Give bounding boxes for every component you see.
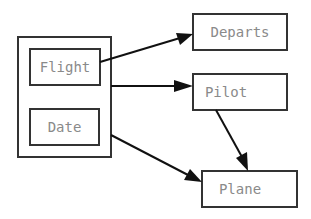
arrowhead-pilot [174,80,193,92]
arrowhead-departs [176,33,193,45]
node-date[interactable]: Date [30,109,99,145]
node-flight[interactable]: Flight [30,49,100,85]
node-date-label: Date [48,119,82,135]
edge-pilot-to-plane [216,110,242,157]
arrowhead-plane-from-group [184,169,202,182]
edge-group-to-plane [111,135,188,175]
node-pilot-label: Pilot [205,84,247,100]
node-plane[interactable]: Plane [202,171,297,207]
node-pilot[interactable]: Pilot [193,74,287,110]
arrowhead-plane-from-pilot [236,152,248,171]
node-departs[interactable]: Departs [193,14,287,50]
node-plane-label: Plane [219,181,261,197]
node-flight-label: Flight [40,59,91,75]
dependency-diagram: Flight Date Departs Pilot Plane [0,0,311,219]
node-departs-label: Departs [210,24,269,40]
